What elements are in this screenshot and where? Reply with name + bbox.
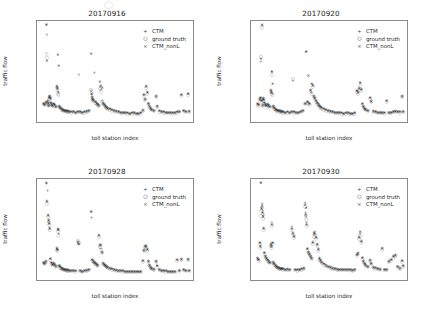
data-point-CTM_nonL: ×: [311, 84, 315, 88]
cross-marker-icon: ×: [142, 202, 149, 207]
plus-marker-icon: +: [356, 29, 363, 34]
legend-item: ×CTM_nonL: [142, 201, 186, 207]
x-axis-label: toll station index: [250, 293, 408, 299]
x-tick-label: 0: [254, 280, 257, 281]
data-point-CTM_nonL: ×: [99, 243, 103, 247]
circle-marker-icon: ○: [142, 36, 149, 41]
legend-label: CTM_nonL: [366, 43, 394, 49]
legend-label: ground truth: [366, 194, 400, 200]
x-tick-mark: [69, 280, 70, 281]
legend-item: ×CTM_nonL: [356, 201, 400, 207]
data-point-CTM_nonL: ×: [141, 259, 145, 263]
x-axis-label: toll station index: [36, 135, 194, 141]
data-point-CTM_nonL: ×: [301, 109, 305, 113]
data-point-CTM: +: [92, 71, 96, 75]
data-point-CTM_nonL: ×: [97, 234, 101, 238]
data-point-CTM_nonL: ×: [260, 204, 264, 208]
x-tick-label: 100: [91, 280, 101, 281]
x-tick-mark: [255, 280, 256, 281]
data-point-CTM_nonL: ×: [154, 94, 158, 98]
data-point-CTM_nonL: ×: [271, 82, 275, 86]
legend: +CTM○ground truth×CTM_nonL: [354, 26, 403, 51]
data-point-CTM_nonL: ×: [145, 248, 149, 252]
data-point-CTM: +: [77, 72, 81, 76]
x-tick-mark: [283, 122, 284, 123]
x-tick-label: 150: [119, 280, 129, 281]
y-axis-label: traffic flow: [216, 56, 222, 86]
data-point-CTM_nonL: ×: [89, 210, 93, 214]
data-point-CTM_nonL: ×: [306, 74, 310, 78]
x-tick-label: 250: [388, 280, 398, 281]
data-point-CTM_nonL: ×: [378, 267, 382, 271]
data-point-CTM_nonL: ×: [96, 263, 100, 267]
x-tick-mark: [338, 122, 339, 123]
x-tick-label: 50: [280, 122, 287, 123]
data-point-ground-truth: ○: [99, 90, 103, 94]
circle-marker-icon: ○: [142, 194, 149, 199]
legend-item: ○ground truth: [356, 194, 400, 200]
x-tick-label: 100: [305, 122, 315, 123]
data-point-CTM_nonL: ×: [145, 91, 149, 95]
plot-area: 0500010000150002000025000300003500005010…: [36, 20, 194, 123]
cross-marker-icon: ×: [142, 44, 149, 49]
data-point-CTM_nonL: ×: [288, 268, 292, 272]
data-point-CTM_nonL: ×: [257, 258, 261, 262]
data-point-CTM_nonL: ×: [177, 269, 181, 273]
legend-item: ×CTM_nonL: [356, 43, 400, 49]
x-tick-mark: [124, 280, 125, 281]
data-point-CTM_nonL: ×: [74, 269, 78, 273]
legend: +CTM○ground truth×CTM_nonL: [354, 184, 403, 209]
plot-panel-20170920: 20170920traffic flowtoll station index05…: [214, 0, 428, 158]
data-point-CTM_nonL: ×: [48, 226, 52, 230]
legend-label: ground truth: [152, 36, 186, 42]
data-point-CTM_nonL: ×: [400, 94, 404, 98]
data-point-CTM_nonL: ×: [358, 81, 362, 85]
data-point-CTM_nonL: ×: [270, 91, 274, 95]
plot-area: 0500010000150002000025000300000501001502…: [250, 178, 408, 281]
data-point-ground-truth: ○: [57, 234, 61, 238]
legend-label: CTM: [152, 186, 164, 192]
data-point-CTM_nonL: ×: [308, 102, 312, 106]
cross-marker-icon: ×: [356, 202, 363, 207]
x-tick-mark: [41, 280, 42, 281]
data-point-CTM_nonL: ×: [310, 257, 314, 261]
data-point-CTM_nonL: ×: [385, 268, 389, 272]
data-point-CTM_nonL: ×: [180, 93, 184, 97]
data-point-CTM_nonL: ×: [56, 53, 60, 57]
x-tick-label: 250: [174, 280, 184, 281]
figure-canvas: 20170916traffic flowtoll station index05…: [0, 0, 428, 316]
data-point-CTM_nonL: ×: [186, 92, 190, 96]
x-tick-label: 150: [333, 280, 343, 281]
legend-item: +CTM: [142, 28, 186, 34]
data-point-CTM_nonL: ×: [152, 109, 156, 113]
x-tick-mark: [283, 280, 284, 281]
data-point-CTM_nonL: ×: [302, 266, 306, 270]
legend: +CTM○ground truth×CTM_nonL: [140, 26, 189, 51]
data-point-CTM_nonL: ×: [356, 251, 360, 255]
data-point-CTM_nonL: ×: [366, 109, 370, 113]
x-tick-mark: [393, 280, 394, 281]
x-tick-mark: [179, 122, 180, 123]
x-tick-label: 200: [147, 122, 157, 123]
x-tick-mark: [179, 280, 180, 281]
x-tick-label: 0: [40, 122, 43, 123]
data-point-CTM_nonL: ×: [261, 215, 265, 219]
legend-item: ○ground truth: [142, 36, 186, 42]
legend-label: CTM: [152, 28, 164, 34]
data-point-CTM_nonL: ×: [87, 268, 91, 272]
data-point-CTM_nonL: ×: [304, 50, 308, 54]
legend-item: +CTM: [356, 186, 400, 192]
data-point-CTM_nonL: ×: [304, 206, 308, 210]
x-axis-label: toll station index: [36, 293, 194, 299]
data-point-CTM_nonL: ×: [309, 88, 313, 92]
data-point-CTM_nonL: ×: [292, 234, 296, 238]
x-tick-label: 200: [147, 280, 157, 281]
cross-marker-icon: ×: [356, 44, 363, 49]
data-point-CTM_nonL: ×: [314, 236, 318, 240]
legend: +CTM○ground truth×CTM_nonL: [140, 184, 189, 209]
data-point-ground-truth: ○: [291, 77, 295, 81]
data-point-CTM_nonL: ×: [45, 200, 49, 204]
x-tick-mark: [310, 280, 311, 281]
data-point-CTM_nonL: ×: [56, 87, 60, 91]
data-point-CTM_nonL: ×: [359, 88, 363, 92]
